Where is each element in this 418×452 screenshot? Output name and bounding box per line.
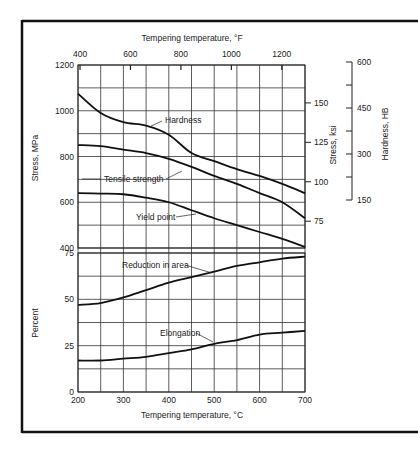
y-axis-title-percent: Percent	[30, 308, 40, 338]
mechanical-properties-chart: 2003004005006007004006008001000120040060…	[0, 0, 418, 452]
svg-text:Yield point: Yield point	[136, 212, 176, 222]
svg-text:Elongation: Elongation	[160, 328, 200, 338]
axes: 2003004005006007004006008001000120040060…	[55, 49, 371, 405]
y-tick-label-mpa: 600	[60, 197, 74, 207]
figure-frame	[22, 20, 418, 433]
y-tick-label-mpa: 1200	[55, 60, 74, 70]
annotation-yield-point: Yield point	[136, 212, 196, 222]
y-tick-label-ksi: 100	[314, 177, 328, 187]
annotation-elongation: Elongation	[160, 328, 213, 342]
y-tick-label-hb: 450	[357, 103, 371, 113]
y-tick-label-percent: 75	[65, 248, 75, 258]
y-tick-label-mpa: 800	[60, 152, 74, 162]
y-tick-label-hb: 600	[357, 57, 371, 67]
annotation-reduction-in-area: Reduction in area	[122, 260, 212, 273]
x-tick-label-fahrenheit: 400	[73, 49, 87, 59]
bottom-axis-title: Tempering temperature, °C	[141, 410, 243, 420]
x-tick-label-celsius: 300	[116, 395, 130, 405]
x-tick-label-celsius: 700	[298, 395, 312, 405]
y-tick-label-hb: 300	[357, 149, 371, 159]
x-tick-label-celsius: 600	[253, 395, 267, 405]
y-tick-label-percent: 0	[69, 387, 74, 397]
annotation-hardness: Hardness	[149, 115, 201, 127]
x-tick-label-fahrenheit: 600	[123, 49, 137, 59]
y-tick-label-mpa: 1000	[55, 106, 74, 116]
x-tick-label-fahrenheit: 1000	[222, 49, 241, 59]
svg-text:Hardness: Hardness	[165, 115, 201, 125]
x-tick-label-fahrenheit: 800	[174, 49, 188, 59]
y-tick-label-percent: 25	[65, 341, 75, 351]
y-tick-label-ksi: 150	[314, 98, 328, 108]
top-axis-title: Tempering temperature, °F	[141, 33, 242, 43]
x-tick-label-celsius: 400	[162, 395, 176, 405]
y-tick-label-percent: 50	[65, 294, 75, 304]
svg-text:Tensile strength: Tensile strength	[104, 174, 164, 184]
x-tick-label-fahrenheit: 1200	[272, 49, 291, 59]
y-tick-label-ksi: 125	[314, 137, 328, 147]
y-tick-label-ksi: 75	[314, 216, 324, 226]
y-tick-label-hb: 150	[357, 195, 371, 205]
y-axis-title-stress-ksi: Stress, ksi	[328, 125, 338, 164]
svg-text:Reduction in area: Reduction in area	[122, 260, 189, 270]
y-axis-title-stress-mpa: Stress, MPa	[30, 135, 40, 182]
x-tick-label-celsius: 500	[207, 395, 221, 405]
annotation-tensile-strength: Tensile strength	[82, 171, 182, 184]
y-axis-title-hardness-hb: Hardness, HB	[380, 107, 390, 160]
